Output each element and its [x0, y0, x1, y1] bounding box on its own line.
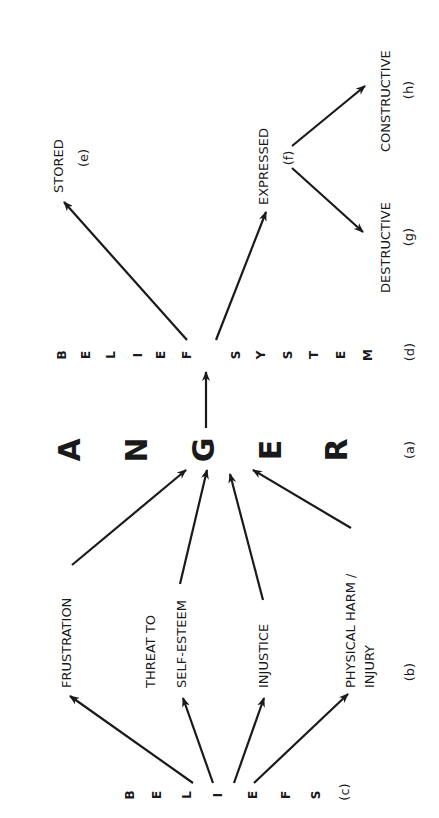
belief-system-letter: E: [79, 351, 93, 359]
arrow-beliefs-to-self-esteem: [183, 698, 213, 783]
belief-system-letter: M: [361, 349, 375, 361]
trigger-physical-harm-line2: INJURY: [362, 645, 377, 688]
beliefs-letter: L: [180, 791, 194, 799]
arrow-to-expressed: [216, 212, 266, 340]
arrow-to-destructive: [292, 168, 363, 232]
anger-word: A N G E R (a): [52, 437, 417, 462]
anger-letter: E: [253, 440, 288, 461]
beliefs-letter: B: [123, 790, 137, 799]
beliefs-letter: I: [211, 793, 225, 797]
belief-system-letter: I: [131, 353, 145, 357]
belief-system-letter: Y: [254, 350, 268, 360]
trigger-threat-line1: THREAT TO: [143, 615, 158, 689]
arrow-self-esteem-to-anger: [180, 470, 207, 584]
belief-system-letter: B: [55, 350, 69, 359]
triggers-tag: (b): [402, 663, 417, 681]
belief-system-letter: F: [180, 351, 194, 359]
outcomes: STORED (e) EXPRESSED (f) DESTRUCTIVE (g)…: [51, 50, 416, 293]
outcome-stored: STORED: [51, 139, 66, 193]
outcome-constructive: CONSTRUCTIVE: [378, 50, 393, 152]
arrow-to-stored: [64, 202, 187, 340]
beliefs-tag: (c): [337, 783, 352, 800]
trigger-frustration: FRUSTRATION: [59, 598, 74, 688]
outcome-expressed: EXPRESSED: [256, 128, 271, 205]
arrow-to-constructive: [292, 86, 365, 146]
triggers-to-anger-arrows: [72, 470, 351, 600]
arrow-frustration-to-anger: [72, 470, 186, 565]
arrow-injustice-to-anger: [230, 474, 263, 600]
outcome-destructive-tag: (g): [401, 228, 416, 246]
belief-system-letter: S: [229, 351, 243, 360]
anger-letter: A: [52, 438, 87, 462]
belief-system-word: B E L I E F S Y S T E M (d): [55, 343, 417, 361]
anger-diagram: A N G E R (a) B E L I E F S Y S T E M (d…: [0, 0, 439, 818]
outcome-stored-tag: (e): [76, 149, 91, 167]
arrow-physical-harm-to-anger: [253, 470, 351, 528]
outcome-expressed-tag: (f): [281, 151, 296, 166]
trigger-injustice: INJUSTICE: [256, 624, 271, 688]
beliefs-letter: E: [246, 791, 260, 799]
belief-system-letter: T: [307, 350, 321, 359]
belief-system-letter: E: [334, 351, 348, 359]
anger-letter: G: [186, 438, 221, 463]
outcome-destructive: DESTRUCTIVE: [378, 202, 393, 293]
beliefs-letter: F: [279, 791, 293, 799]
trigger-physical-harm-line1: PHYSICAL HARM /: [343, 573, 358, 688]
belief-system-tag: (d): [402, 343, 417, 361]
belief-system-letter: E: [154, 351, 168, 359]
belief-system-letter: L: [104, 351, 118, 359]
beliefs-letter: S: [309, 791, 323, 800]
outcome-constructive-tag: (h): [401, 81, 416, 99]
arrow-beliefs-to-physical-harm: [254, 694, 348, 783]
belief-system-letter: S: [281, 351, 295, 360]
trigger-threat-line2: SELF-ESTEEM: [174, 600, 189, 688]
beliefs-word: B E L I E F S (c): [123, 783, 352, 800]
anger-letter: R: [319, 438, 354, 461]
arrow-beliefs-to-frustration: [70, 696, 193, 783]
triggers: FRUSTRATION THREAT TO SELF-ESTEEM INJUST…: [59, 573, 417, 689]
beliefs-letter: E: [150, 791, 164, 799]
anger-letter: N: [119, 437, 154, 462]
anger-tag: (a): [402, 441, 417, 459]
beliefs-to-triggers-arrows: [70, 694, 348, 783]
arrow-beliefs-to-injustice: [234, 698, 264, 783]
